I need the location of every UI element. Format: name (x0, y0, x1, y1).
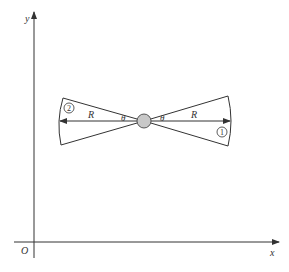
region-2-label: 2 (67, 104, 71, 113)
bowtie-sector-diagram: y x O 2 R θ 1 R θ (0, 0, 289, 272)
angle-left-label: θ (121, 113, 126, 123)
region-1-label: 1 (220, 128, 224, 137)
angle-right-label: θ (160, 113, 165, 123)
y-axis-label: y (24, 13, 30, 24)
origin-label: O (21, 245, 28, 256)
radius-right-label: R (190, 109, 197, 120)
sector-right: 1 R θ (144, 96, 231, 146)
coordinate-axes: y x O (14, 12, 279, 258)
sector-left: 2 R θ (59, 98, 144, 145)
pivot-ball (137, 114, 151, 128)
x-axis-label: x (269, 247, 275, 258)
radius-left-label: R (87, 109, 94, 120)
